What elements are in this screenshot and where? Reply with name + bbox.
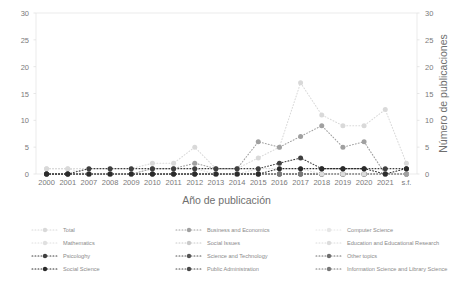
legend-item-label: Social Issues xyxy=(207,240,240,246)
x-axis-tick: 2008 xyxy=(102,178,119,187)
data-point xyxy=(362,166,367,171)
data-point xyxy=(340,172,345,177)
legend-item[interactable]: Science and Technology xyxy=(176,253,268,259)
data-point xyxy=(150,166,155,171)
y-axis-right-tick: 20 xyxy=(425,63,433,72)
data-point xyxy=(340,166,345,171)
y-axis-right-tick: 15 xyxy=(425,90,433,99)
data-point xyxy=(86,166,91,171)
x-axis-tick: 2015 xyxy=(250,178,267,187)
data-point xyxy=(362,123,367,128)
legend-item[interactable]: Psicologhy xyxy=(32,253,90,259)
series-line xyxy=(47,83,407,169)
data-point xyxy=(404,161,409,166)
y-axis-right-tick: 10 xyxy=(425,116,433,125)
x-axis-tick: 2013 xyxy=(208,178,225,187)
y-axis-left-tick: 10 xyxy=(21,116,29,125)
data-point xyxy=(129,172,134,177)
series-social-science xyxy=(44,166,409,176)
data-point xyxy=(171,166,176,171)
y-axis-left-tick: 20 xyxy=(21,63,29,72)
data-point xyxy=(171,161,176,166)
legend-item[interactable]: Computer Science xyxy=(316,227,393,233)
series-group xyxy=(44,80,409,176)
data-point xyxy=(129,166,134,171)
data-point xyxy=(277,166,282,171)
data-point xyxy=(298,134,303,139)
legend-item[interactable]: Education and Educational Research xyxy=(316,240,439,246)
legend-item-label: Other topics xyxy=(347,253,377,259)
x-axis-tick: s.f. xyxy=(401,178,411,187)
data-point xyxy=(192,161,197,166)
legend-marker xyxy=(187,228,191,232)
data-point xyxy=(213,166,218,171)
data-point xyxy=(340,123,345,128)
x-axis-tick: 2021 xyxy=(377,178,394,187)
data-point xyxy=(235,166,240,171)
data-point xyxy=(108,172,113,177)
y-axis-right-tick: 25 xyxy=(425,36,433,45)
data-point xyxy=(298,80,303,85)
y-axis-right-title: Número de publicaciones xyxy=(437,34,449,152)
legend-item[interactable]: Total xyxy=(32,227,75,233)
legend-marker xyxy=(187,267,191,271)
y-axis-right-tick: 0 xyxy=(425,170,429,179)
x-axis-tick: 2010 xyxy=(144,178,161,187)
data-point xyxy=(404,172,409,177)
x-axis-tick: 2007 xyxy=(81,178,98,187)
legend-item[interactable]: Information Science and Library Science xyxy=(316,266,447,272)
legend-item[interactable]: Social Science xyxy=(32,266,100,272)
data-point xyxy=(44,166,49,171)
legend-item[interactable]: Business and Economics xyxy=(176,227,270,233)
legend-item[interactable]: Mathematics xyxy=(32,240,95,246)
x-axis: 2000200120072008200920102011201220132014… xyxy=(38,178,411,187)
data-point xyxy=(192,145,197,150)
legend-item-label: Computer Science xyxy=(347,227,393,233)
x-axis-tick: 2011 xyxy=(166,178,182,187)
x-axis-tick: 2001 xyxy=(59,178,76,187)
series-education-and-educational-research xyxy=(44,166,409,176)
y-axis-left: 051015202530 xyxy=(21,9,36,179)
legend-item-label: Public Administration xyxy=(207,266,259,272)
y-axis-right-tick: 5 xyxy=(425,143,429,152)
series-line xyxy=(47,158,407,174)
chart-legend: TotalMathematicsPsicologhySocial Science… xyxy=(32,227,447,272)
data-point xyxy=(235,172,240,177)
data-point xyxy=(319,172,324,177)
publications-by-year-chart: 051015202530 051015202530 20002001200720… xyxy=(0,0,455,282)
legend-item[interactable]: Other topics xyxy=(316,253,377,259)
data-point xyxy=(383,166,388,171)
legend-item[interactable]: Social Issues xyxy=(176,240,240,246)
data-point xyxy=(319,166,324,171)
data-point xyxy=(298,155,303,160)
data-point xyxy=(171,172,176,177)
data-point xyxy=(150,172,155,177)
x-axis-title: Año de publicación xyxy=(182,194,271,206)
legend-item-label: Science and Technology xyxy=(207,253,268,259)
data-point xyxy=(383,107,388,112)
x-axis-tick: 2012 xyxy=(186,178,203,187)
x-axis-tick: 2017 xyxy=(292,178,309,187)
data-point xyxy=(86,172,91,177)
legend-marker xyxy=(327,267,331,271)
legend-item-label: Psicologhy xyxy=(63,253,90,259)
y-axis-left-tick: 0 xyxy=(25,170,29,179)
data-point xyxy=(277,145,282,150)
legend-item-label: Total xyxy=(63,227,75,233)
y-axis-right-tick: 30 xyxy=(425,9,433,18)
x-axis-tick: 2019 xyxy=(335,178,352,187)
y-axis-left-tick: 5 xyxy=(25,143,29,152)
legend-item[interactable]: Public Administration xyxy=(176,266,259,272)
y-axis-left-tick: 30 xyxy=(21,9,29,18)
data-point xyxy=(256,166,261,171)
legend-marker xyxy=(327,241,331,245)
legend-marker xyxy=(327,254,331,258)
data-point xyxy=(340,145,345,150)
x-axis-tick: 2014 xyxy=(229,178,246,187)
series-line xyxy=(47,126,407,174)
chart-canvas: 051015202530 051015202530 20002001200720… xyxy=(0,0,455,282)
data-point xyxy=(65,166,70,171)
data-point xyxy=(277,172,282,177)
legend-marker xyxy=(43,267,47,271)
legend-item-label: Social Science xyxy=(63,266,100,272)
